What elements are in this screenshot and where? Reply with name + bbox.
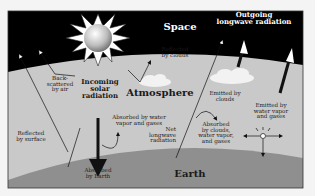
reflected-clouds-label: Reflected by clouds bbox=[150, 47, 200, 58]
outgoing-longwave-label: Outgoing longwave radiation bbox=[206, 11, 302, 25]
incoming-solar-label: Incoming solar radiation bbox=[78, 78, 122, 99]
absorbed-earth-label: Absorbed by Earth bbox=[78, 168, 118, 179]
earth-label: Earth bbox=[170, 169, 210, 179]
net-longwave-label: Net longwave radiation bbox=[136, 127, 176, 144]
emitted-water-label: Emitted by water vapor and gases bbox=[246, 103, 296, 120]
back-scattered-label: Back- scattered by air bbox=[40, 76, 80, 93]
absorbed-clouds-label: Absorbed by clouds, water vapor, and gas… bbox=[192, 122, 240, 144]
emitted-clouds-label: Emitted by clouds bbox=[205, 91, 245, 102]
reflected-surface-label: Reflected by surface bbox=[10, 131, 52, 142]
absorbed-water-label: Absorbed by water vapor and gases bbox=[104, 115, 174, 126]
space-label: Space bbox=[150, 22, 210, 32]
atmosphere-label: Atmosphere bbox=[120, 88, 200, 98]
